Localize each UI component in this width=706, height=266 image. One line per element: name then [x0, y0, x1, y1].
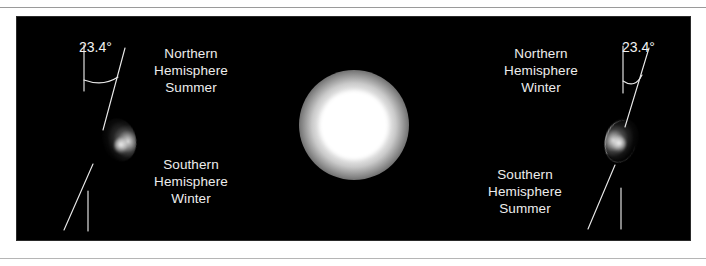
- diagram-black-panel: 23.4° 23.4° Northern Hemisphere Summer S…: [16, 16, 691, 241]
- left-rotation-axis-lower: [64, 164, 93, 230]
- left-northern-line-3: Summer: [131, 79, 251, 96]
- seasons-diagram-figure: 23.4° 23.4° Northern Hemisphere Summer S…: [0, 0, 706, 266]
- right-southern-line-2: Hemisphere: [465, 183, 585, 200]
- right-rotation-axis-upper: [625, 48, 649, 127]
- right-southern-line-1: Southern: [465, 166, 585, 183]
- left-southern-line-3: Winter: [131, 190, 251, 207]
- left-axial-tilt-label: 23.4°: [79, 39, 112, 55]
- earth-left-lit-highlight: [114, 137, 129, 154]
- right-southern-hemisphere-label: Southern Hemisphere Summer: [465, 166, 585, 217]
- top-divider-rule: [0, 7, 706, 8]
- earth-right-lit-highlight: [611, 135, 626, 153]
- sun-core: [320, 91, 388, 159]
- left-tilt-angle-arc: [84, 77, 118, 83]
- right-northern-hemisphere-label: Northern Hemisphere Winter: [481, 45, 601, 96]
- bottom-divider-rule: [0, 258, 706, 259]
- right-rotation-axis-lower: [588, 165, 615, 229]
- right-northern-line-1: Northern: [481, 45, 601, 62]
- left-southern-line-1: Southern: [131, 156, 251, 173]
- left-southern-line-2: Hemisphere: [131, 173, 251, 190]
- right-tilt-angle-arc: [623, 75, 642, 84]
- left-northern-hemisphere-label: Northern Hemisphere Summer: [131, 45, 251, 96]
- right-northern-line-3: Winter: [481, 79, 601, 96]
- right-axial-tilt-label: 23.4°: [622, 39, 655, 55]
- right-northern-line-2: Hemisphere: [481, 62, 601, 79]
- left-northern-line-2: Hemisphere: [131, 62, 251, 79]
- right-southern-line-3: Summer: [465, 200, 585, 217]
- left-northern-line-1: Northern: [131, 45, 251, 62]
- left-southern-hemisphere-label: Southern Hemisphere Winter: [131, 156, 251, 207]
